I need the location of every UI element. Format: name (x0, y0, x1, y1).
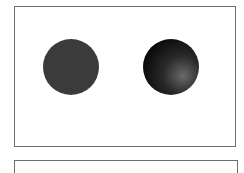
diagram-canvas (0, 0, 244, 173)
flat-circle (43, 39, 99, 95)
shapes-layer (0, 0, 244, 173)
shaded-sphere (143, 39, 199, 95)
